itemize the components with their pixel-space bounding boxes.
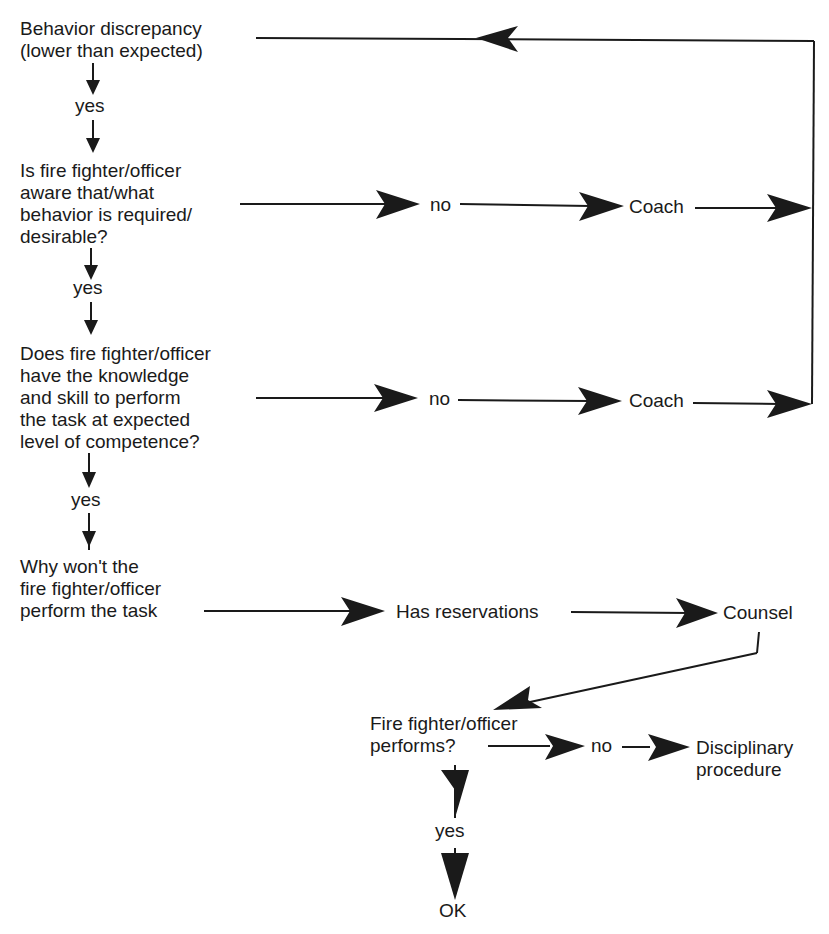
- node-ok: OK: [439, 900, 466, 922]
- arrow-down-icon: [86, 138, 100, 153]
- node-disciplinary-procedure: Disciplinary procedure: [696, 737, 793, 781]
- arrow-down-icon: [82, 531, 96, 547]
- edge-label-no: no: [430, 194, 451, 216]
- edge-label-yes: yes: [75, 95, 105, 117]
- node-has-reservations: Has reservations: [396, 601, 539, 623]
- node-behavior-discrepancy: Behavior discrepancy (lower than expecte…: [20, 18, 203, 62]
- node-coach-1: Coach: [629, 196, 684, 218]
- node-aware-question: Is fire fighter/officer aware that/what …: [20, 160, 192, 248]
- edge-label-yes: yes: [71, 489, 101, 511]
- arrow-down-left-icon: [493, 686, 542, 710]
- flowchart-connectors: [0, 0, 829, 934]
- arrow-down-icon: [441, 853, 469, 900]
- arrow-right-icon: [648, 734, 690, 761]
- edge-label-yes: yes: [435, 820, 465, 842]
- node-performs-question: Fire fighter/officer performs?: [370, 713, 517, 757]
- node-coach-2: Coach: [629, 390, 684, 412]
- arrow-down-icon: [441, 770, 469, 818]
- node-knowledge-question: Does fire fighter/officer have the knowl…: [20, 343, 211, 453]
- arrow-right-icon: [545, 734, 585, 760]
- arrow-down-icon: [84, 320, 98, 335]
- node-counsel: Counsel: [723, 602, 793, 624]
- edge-label-no: no: [591, 735, 612, 757]
- arrow-down-icon: [86, 80, 100, 95]
- edge-label-yes: yes: [73, 277, 103, 299]
- node-why-wont-question: Why won't the fire fighter/officer perfo…: [20, 556, 161, 622]
- edge-label-no: no: [429, 388, 450, 410]
- arrow-down-icon: [82, 472, 96, 488]
